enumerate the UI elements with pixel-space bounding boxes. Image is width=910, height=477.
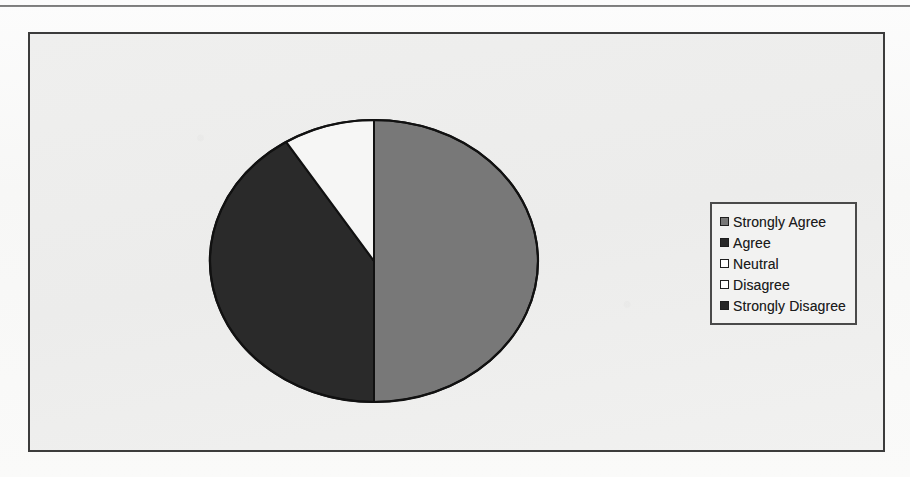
legend-item-disagree[interactable]: Disagree <box>720 274 846 295</box>
legend-swatch-strongly-disagree <box>720 301 729 310</box>
legend-swatch-strongly-agree <box>720 217 729 226</box>
pie-slice-group <box>210 120 538 402</box>
scanned-page: Strongly Agree Agree Neutral Disagree St… <box>0 0 910 477</box>
top-horizontal-rule <box>0 5 910 7</box>
legend-label-agree: Agree <box>733 236 771 250</box>
pie-slice-strongly-agree[interactable] <box>374 120 538 402</box>
chart-legend: Strongly Agree Agree Neutral Disagree St… <box>710 202 857 325</box>
legend-label-disagree: Disagree <box>733 278 790 292</box>
legend-label-strongly-agree: Strongly Agree <box>733 215 826 229</box>
legend-label-neutral: Neutral <box>733 257 779 271</box>
legend-item-strongly-disagree[interactable]: Strongly Disagree <box>720 295 846 316</box>
legend-item-strongly-agree[interactable]: Strongly Agree <box>720 211 846 232</box>
legend-item-neutral[interactable]: Neutral <box>720 253 846 274</box>
legend-swatch-disagree <box>720 280 729 289</box>
legend-label-strongly-disagree: Strongly Disagree <box>733 299 846 313</box>
chart-frame: Strongly Agree Agree Neutral Disagree St… <box>28 32 885 452</box>
legend-swatch-neutral <box>720 259 729 268</box>
legend-swatch-agree <box>720 238 729 247</box>
legend-item-agree[interactable]: Agree <box>720 232 846 253</box>
